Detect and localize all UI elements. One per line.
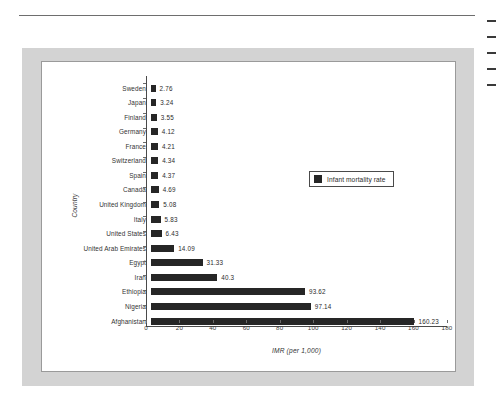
bar	[151, 245, 174, 252]
bar-category-label: Japan	[62, 99, 151, 106]
x-axis-tick-label: 0	[144, 324, 148, 331]
margin-text-line	[487, 20, 496, 22]
bar-category-label: Ethiopia	[62, 288, 151, 295]
y-axis-tick	[143, 275, 146, 276]
bar-value-label: 4.69	[163, 186, 176, 193]
bar-track: 2.76	[151, 82, 447, 94]
bar-value-label: 5.83	[165, 216, 178, 223]
x-axis-title: IMR (per 1,000)	[146, 347, 447, 354]
bar-category-label: United Arab Emirates	[62, 245, 151, 252]
bar	[151, 114, 157, 121]
plot-area: Country Sweden2.76Japan3.24Finland3.55Ge…	[41, 61, 456, 372]
bar-category-label: Iran	[62, 274, 151, 281]
bar	[151, 99, 156, 106]
bar	[151, 288, 305, 295]
x-axis-tick	[146, 320, 147, 323]
y-axis-tick	[143, 142, 146, 143]
y-axis-tick	[143, 113, 146, 114]
bar-value-label: 6.43	[166, 230, 179, 237]
y-axis-tick	[143, 290, 146, 291]
bar-category-label: Sweden	[62, 85, 151, 92]
x-axis-tick	[347, 320, 348, 323]
bar-track: 6.43	[151, 228, 447, 240]
bar-value-label: 3.24	[160, 99, 173, 106]
bar-track: 5.08	[151, 199, 447, 211]
bar-rows: Sweden2.76Japan3.24Finland3.55Germany4.1…	[62, 82, 447, 327]
y-axis-tick	[143, 172, 146, 173]
x-axis-tick	[179, 320, 180, 323]
bar	[151, 201, 159, 208]
bar-value-label: 3.55	[161, 114, 174, 121]
bar-row: United States6.43	[62, 228, 447, 240]
bar-row: Iran40.3	[62, 271, 447, 283]
bar-track: 3.24	[151, 97, 447, 109]
x-axis-tick-label: 180	[442, 324, 453, 331]
bar-value-label: 5.08	[163, 201, 176, 208]
bar-category-label: Canada	[62, 186, 151, 193]
bar-category-label: Switzerland	[62, 157, 151, 164]
bar-row: Finland3.55	[62, 111, 447, 123]
bar-track: 14.09	[151, 242, 447, 254]
bar-track: 4.69	[151, 184, 447, 196]
bar-value-label: 93.62	[309, 288, 326, 295]
x-axis-tick-label: 100	[308, 324, 319, 331]
bar-value-label: 40.3	[221, 274, 234, 281]
y-axis-tick	[143, 216, 146, 217]
x-axis-tick	[313, 320, 314, 323]
bar	[151, 186, 159, 193]
chart-legend: Infant mortality rate	[309, 171, 394, 187]
bar-category-label: France	[62, 143, 151, 150]
x-axis-tick-label: 80	[276, 324, 283, 331]
y-axis-tick	[143, 157, 146, 158]
bar	[151, 143, 158, 150]
x-axis-tick-label: 40	[209, 324, 216, 331]
bar-category-label: Spain	[62, 172, 151, 179]
bar-row: France4.21	[62, 140, 447, 152]
margin-text-fragments	[487, 20, 496, 100]
y-axis-line	[146, 76, 147, 327]
bar	[151, 85, 156, 92]
bar	[151, 157, 158, 164]
x-axis-ticks: 020406080100120140160180	[146, 320, 447, 334]
bar-category-label: Afghanistan	[62, 318, 151, 325]
bar-track: 3.55	[151, 111, 447, 123]
bar-category-label: Finland	[62, 114, 151, 121]
bar-track: 97.14	[151, 300, 447, 312]
x-axis-tick	[380, 320, 381, 323]
x-axis-tick	[246, 320, 247, 323]
bar-row: Ethiopia93.62	[62, 286, 447, 298]
bar-row: Japan3.24	[62, 97, 447, 109]
bar-track: 93.62	[151, 286, 447, 298]
x-axis-tick	[447, 320, 448, 323]
bar-track: 5.83	[151, 213, 447, 225]
bar-value-label: 2.76	[160, 85, 173, 92]
x-axis-tick-label: 20	[176, 324, 183, 331]
bar-category-label: Germany	[62, 128, 151, 135]
bar-track: 40.3	[151, 271, 447, 283]
bar-value-label: 4.37	[162, 172, 175, 179]
bar-value-label: 4.34	[162, 157, 175, 164]
x-axis-tick	[280, 320, 281, 323]
y-axis-tick	[143, 231, 146, 232]
bar	[151, 172, 158, 179]
margin-text-line	[487, 84, 496, 86]
x-axis-tick-label: 120	[341, 324, 352, 331]
bar-track: 31.33	[151, 257, 447, 269]
legend-label: Infant mortality rate	[327, 176, 386, 183]
bar-value-label: 4.21	[162, 143, 175, 150]
chart-figure: Country Sweden2.76Japan3.24Finland3.55Ge…	[22, 48, 474, 386]
margin-text-line	[487, 68, 496, 70]
margin-text-line	[487, 52, 496, 54]
bar-value-label: 31.33	[207, 259, 224, 266]
y-axis-tick	[143, 246, 146, 247]
y-axis-tick	[143, 305, 146, 306]
y-axis-tick	[143, 83, 146, 84]
y-axis-tick	[143, 98, 146, 99]
bar-row: Germany4.12	[62, 126, 447, 138]
x-axis-tick	[414, 320, 415, 323]
x-axis-tick	[213, 320, 214, 323]
bar-row: Sweden2.76	[62, 82, 447, 94]
bar-category-label: Nigeria	[62, 303, 151, 310]
y-axis-tick	[143, 202, 146, 203]
bar	[151, 303, 311, 310]
